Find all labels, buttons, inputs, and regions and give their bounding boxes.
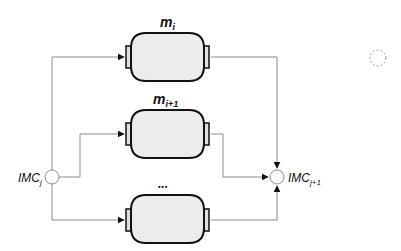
input-node-imc-j: IMCj xyxy=(18,170,59,187)
module-box-ellipsis: ... xyxy=(126,177,209,243)
module-label-ellipsis: ... xyxy=(158,177,168,191)
dashed-circle-icon xyxy=(370,50,386,66)
module-label-m-i-plus-1: mi+1 xyxy=(153,91,178,109)
module-3-to-output-line xyxy=(211,186,277,220)
module-pipeline-diagram: mi mi+1 ... IMCj IMCj+1 xyxy=(0,0,401,251)
module-2-to-output-line xyxy=(211,134,268,177)
input-node-label: IMCj xyxy=(18,171,42,187)
input-node-circle xyxy=(45,170,59,184)
output-node-circle xyxy=(270,170,284,184)
module-box-m-i: mi xyxy=(126,14,209,81)
input-to-module-2-line xyxy=(59,134,124,177)
module-box-m-i-plus-1: mi+1 xyxy=(126,91,209,158)
module-label-m-i: mi xyxy=(160,14,175,32)
module-1-to-output-line xyxy=(211,57,277,168)
input-to-module-1-line xyxy=(52,57,124,170)
output-node-imc-j-plus-1: IMCj+1 xyxy=(270,170,321,187)
output-node-label: IMCj+1 xyxy=(288,171,321,187)
input-to-module-3-line xyxy=(52,184,124,220)
